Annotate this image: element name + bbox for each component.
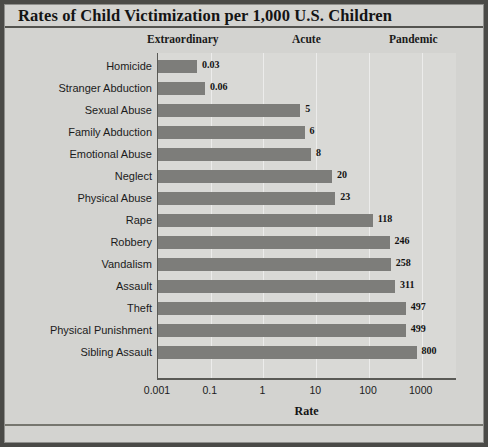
- x-tick-label: 0.1: [202, 384, 217, 396]
- x-tick-label: 100: [359, 384, 377, 396]
- bar-row: 246: [158, 232, 456, 254]
- plot-area: 0.030.065682023118246258311497499800: [157, 53, 456, 378]
- category-label: Homicide: [2, 60, 152, 72]
- bar-value-label: 5: [305, 103, 310, 114]
- title-band: Rates of Child Victimization per 1,000 U…: [5, 5, 483, 28]
- bar-value-label: 499: [411, 323, 426, 334]
- bar: [158, 126, 305, 139]
- bar-value-label: 8: [316, 147, 321, 158]
- x-tick-label: 1000: [409, 384, 432, 396]
- bar-value-label: 23: [340, 191, 350, 202]
- bar-row: 8: [158, 144, 456, 166]
- bar-row: 800: [158, 342, 456, 364]
- bar: [158, 170, 332, 183]
- bar: [158, 236, 390, 249]
- x-tick-label: 10: [309, 384, 321, 396]
- category-label: Rape: [2, 214, 152, 226]
- x-axis-line: [157, 378, 456, 380]
- bar-row: 23: [158, 188, 456, 210]
- bar: [158, 258, 391, 271]
- category-label: Vandalism: [2, 258, 152, 270]
- bar-value-label: 258: [396, 257, 411, 268]
- bar: [158, 280, 395, 293]
- bar: [158, 302, 406, 315]
- bar-value-label: 0.06: [210, 81, 228, 92]
- bar-value-label: 118: [378, 213, 392, 224]
- category-label: Sibling Assault: [2, 346, 152, 358]
- category-label: Theft: [2, 302, 152, 314]
- bar: [158, 82, 205, 95]
- bar: [158, 346, 417, 359]
- chart-figure: Rates of Child Victimization per 1,000 U…: [0, 0, 488, 447]
- bar-row: 499: [158, 320, 456, 342]
- category-label: Physical Abuse: [2, 192, 152, 204]
- bar-row: 20: [158, 166, 456, 188]
- category-label: Emotional Abuse: [2, 148, 152, 160]
- band-label-acute: Acute: [292, 33, 321, 45]
- bar-value-label: 497: [411, 301, 426, 312]
- category-label: Stranger Abduction: [2, 82, 152, 94]
- category-label: Robbery: [2, 236, 152, 248]
- bottom-divider: [5, 424, 483, 426]
- bar-row: 258: [158, 254, 456, 276]
- bar-row: 118: [158, 210, 456, 232]
- x-tick-label: 0.001: [144, 384, 170, 396]
- bar: [158, 214, 373, 227]
- bar: [158, 192, 335, 205]
- bar-row: 0.03: [158, 56, 456, 78]
- bar: [158, 148, 311, 161]
- category-label: Physical Punishment: [2, 324, 152, 336]
- bar-row: 311: [158, 276, 456, 298]
- bar-row: 6: [158, 122, 456, 144]
- x-axis-title: Rate: [157, 404, 456, 419]
- title-divider: [5, 26, 483, 28]
- page-title: Rates of Child Victimization per 1,000 U…: [18, 6, 392, 26]
- category-label: Neglect: [2, 170, 152, 182]
- band-label-pandemic: Pandemic: [389, 33, 438, 45]
- category-axis-labels: HomicideStranger AbductionSexual AbuseFa…: [0, 53, 152, 378]
- band-label-extraordinary: Extraordinary: [147, 33, 219, 45]
- bar-value-label: 20: [337, 169, 347, 180]
- bar: [158, 60, 197, 73]
- bar-row: 497: [158, 298, 456, 320]
- bar-row: 5: [158, 100, 456, 122]
- bar: [158, 324, 406, 337]
- bar: [158, 104, 300, 117]
- x-tick-label: 1: [260, 384, 266, 396]
- bar-row: 0.06: [158, 78, 456, 100]
- bar-value-label: 6: [310, 125, 315, 136]
- bar-value-label: 246: [395, 235, 410, 246]
- bar-value-label: 800: [422, 345, 437, 356]
- category-label: Sexual Abuse: [2, 104, 152, 116]
- category-label: Assault: [2, 280, 152, 292]
- category-label: Family Abduction: [2, 126, 152, 138]
- bar-value-label: 0.03: [202, 59, 220, 70]
- bar-value-label: 311: [400, 279, 414, 290]
